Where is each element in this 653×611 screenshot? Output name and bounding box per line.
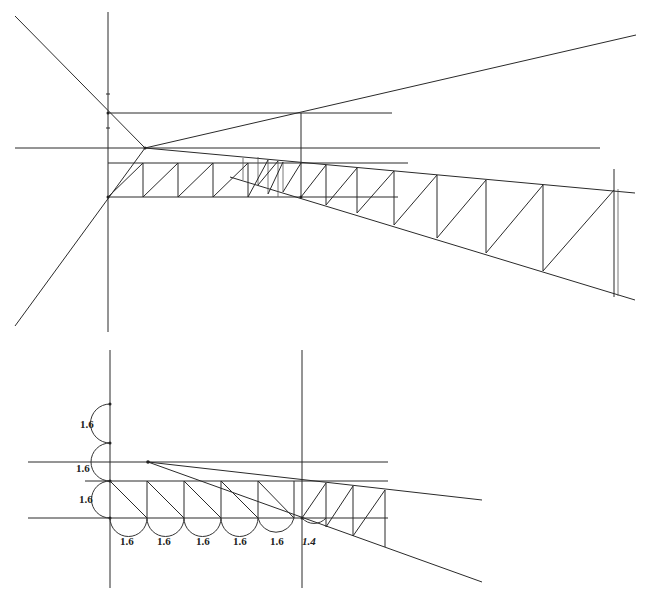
label-horizontal-2: 1.6 [157, 535, 171, 547]
label-horizontal-4: 1.6 [233, 535, 247, 547]
diagram-canvas: 1.6 1.6 1.6 1.6 1.6 1.6 1.6 1.6 1.4 [0, 0, 653, 611]
label-horizontal-3: 1.6 [196, 535, 210, 547]
diagonal-upper-left [15, 16, 145, 148]
bottom-figure: 1.6 1.6 1.6 1.6 1.6 1.6 1.6 1.6 1.4 [28, 350, 482, 588]
truss-top-chord [145, 148, 635, 193]
label-horizontal-1: 1.6 [120, 535, 134, 547]
label-vertical-1: 1.6 [80, 418, 94, 430]
upper-ray [145, 35, 636, 148]
top-figure [15, 12, 636, 332]
label-horizontal-6: 1.4 [302, 535, 316, 547]
ray-lower [148, 462, 482, 582]
diagonal-lower-left [15, 148, 145, 326]
truss-bottom-chord [230, 177, 635, 300]
label-vertical-3: 1.6 [79, 493, 93, 505]
label-horizontal-5: 1.6 [270, 535, 284, 547]
arc-vertical-3 [92, 481, 110, 518]
label-vertical-2: 1.6 [76, 462, 90, 474]
